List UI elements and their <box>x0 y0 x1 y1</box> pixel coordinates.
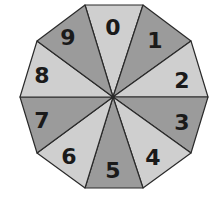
sector-label-2: 2 <box>174 68 189 93</box>
sector-label-3: 3 <box>174 110 189 135</box>
sector-label-1: 1 <box>147 28 162 53</box>
sector-label-5: 5 <box>105 158 120 183</box>
sector-label-9: 9 <box>60 25 75 50</box>
sector-label-6: 6 <box>61 144 76 169</box>
sector-label-4: 4 <box>145 145 160 170</box>
decagon-spinner: 0 1 2 3 4 5 6 7 8 9 <box>0 0 218 197</box>
sector-label-8: 8 <box>34 63 49 88</box>
sector-label-7: 7 <box>34 108 49 133</box>
sector-label-0: 0 <box>105 15 120 40</box>
